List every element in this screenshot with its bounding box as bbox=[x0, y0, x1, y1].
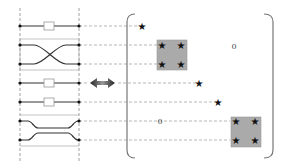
circuit-matrix-diagram: ★ ★ ★ ★ ★ ★ ★ ★ ★ ★ ★ 0 0 bbox=[0, 0, 288, 168]
double-arrow-icon bbox=[90, 78, 115, 88]
phase-shifter-row-0 bbox=[18, 22, 80, 30]
beam-splitter-crossing bbox=[18, 39, 80, 70]
svg-text:★: ★ bbox=[158, 40, 167, 51]
svg-text:★: ★ bbox=[158, 59, 167, 70]
svg-text:★: ★ bbox=[195, 78, 204, 89]
matrix-left-bracket bbox=[127, 14, 135, 158]
directional-coupler bbox=[18, 115, 80, 146]
svg-text:★: ★ bbox=[251, 135, 260, 146]
svg-text:★: ★ bbox=[177, 59, 186, 70]
phase-shifter-row-3 bbox=[18, 79, 80, 87]
svg-text:★: ★ bbox=[232, 116, 241, 127]
phase-shifter-row-4 bbox=[18, 98, 80, 106]
svg-text:★: ★ bbox=[214, 97, 223, 108]
zero-label-upper: 0 bbox=[231, 42, 236, 51]
svg-text:★: ★ bbox=[251, 116, 260, 127]
svg-text:★: ★ bbox=[138, 21, 147, 32]
matrix-right-bracket bbox=[264, 14, 273, 158]
svg-text:★: ★ bbox=[232, 135, 241, 146]
svg-text:★: ★ bbox=[177, 40, 186, 51]
zero-label-lower: 0 bbox=[157, 117, 162, 126]
